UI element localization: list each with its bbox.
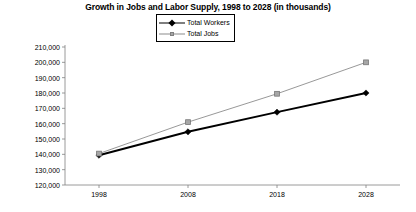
y-axis-tick-label: 160,000 [6, 120, 60, 127]
axis-lines [65, 45, 400, 185]
y-axis-tick-label: 150,000 [6, 136, 60, 143]
y-axis-tick-label: 180,000 [6, 90, 60, 97]
axis-ticks [62, 47, 366, 188]
y-axis-tick-label: 170,000 [6, 105, 60, 112]
chart-container: Growth in Jobs and Labor Supply, 1998 to… [0, 0, 416, 212]
y-axis-tick-label: 190,000 [6, 74, 60, 81]
y-axis-tick-label: 120,000 [6, 182, 60, 189]
y-axis-tick-label: 140,000 [6, 151, 60, 158]
x-axis-tick-label: 2008 [180, 191, 196, 198]
data-series [96, 60, 369, 158]
x-axis-tick-label: 2018 [269, 191, 285, 198]
y-axis-tick-label: 210,000 [6, 44, 60, 51]
x-axis-tick-label: 1998 [91, 191, 107, 198]
x-axis-tick-label: 2028 [358, 191, 374, 198]
plot-area [0, 0, 416, 212]
y-axis-tick-label: 200,000 [6, 59, 60, 66]
y-axis-tick-label: 130,000 [6, 166, 60, 173]
